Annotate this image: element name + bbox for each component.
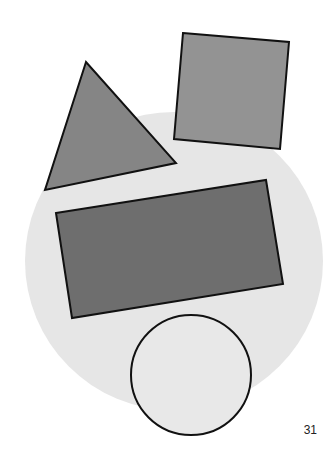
page-number: 31 (304, 423, 317, 437)
small-circle-shape (131, 315, 251, 435)
square-shape (174, 33, 289, 149)
shapes-illustration (0, 0, 329, 455)
